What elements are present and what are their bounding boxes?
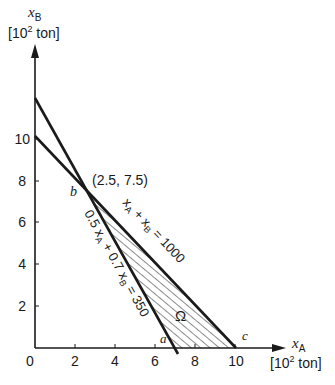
y-tick-label: 8 — [18, 173, 26, 189]
y-tick-label: 10 — [14, 131, 30, 147]
x-tick-label: 10 — [228, 353, 244, 369]
x-axis-arrow-icon — [272, 344, 286, 352]
x-axis-title: xA — [291, 335, 306, 354]
region-omega-label: Ω — [175, 307, 186, 324]
y-tick-label: 2 — [18, 298, 26, 314]
point-b-label: b — [70, 184, 77, 199]
y-axis-arrow-icon — [31, 44, 39, 58]
x-tick-label: 8 — [191, 353, 199, 369]
x-tick-label: 4 — [111, 353, 119, 369]
feasible-region-diagram: 2 4 6 8 10 0 2 4 6 8 10 xB [102 ton] xA … — [0, 0, 335, 385]
constraint-line-1000 — [35, 136, 236, 348]
y-tick-label: 4 — [18, 256, 26, 272]
x-tick-label: 6 — [151, 353, 159, 369]
x-tick-label: 2 — [71, 353, 79, 369]
x-tick-label: 0 — [26, 353, 34, 369]
intersection-label: (2.5, 7.5) — [92, 172, 148, 188]
y-tick-label: 6 — [18, 214, 26, 230]
y-axis-unit: [102 ton] — [8, 24, 60, 41]
y-axis-title: xB — [27, 4, 42, 23]
x-axis-unit: [102 ton] — [270, 354, 322, 371]
point-a-label: a — [160, 331, 167, 346]
point-c-label: c — [242, 328, 248, 343]
